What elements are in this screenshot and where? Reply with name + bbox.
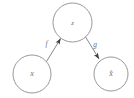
edge-f: f <box>45 37 62 61</box>
edge-f-label: f <box>45 39 48 48</box>
node-z-label: z <box>70 19 74 27</box>
node-z: z <box>53 3 92 42</box>
node-xhat-label: x̂ <box>108 69 113 78</box>
edge-g-label: g <box>93 40 97 49</box>
diagram-canvas: f g x z x̂ <box>0 0 134 98</box>
node-x-label: x <box>29 69 34 78</box>
edge-g: g <box>85 36 101 60</box>
node-x: x <box>13 55 51 93</box>
diagram-svg: f g x z x̂ <box>0 0 134 98</box>
node-xhat: x̂ <box>94 57 128 91</box>
edge-g-arrowhead <box>94 53 101 61</box>
